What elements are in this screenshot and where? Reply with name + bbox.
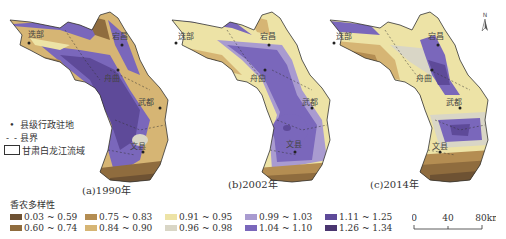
color-swatch-icon [325,225,337,231]
map-symbol-legend: • 县级行政驻地 - - 县界 甘肃白龙江流域 [4,118,85,157]
county-label-dangchang: 宕昌 [112,30,128,41]
county-seat-dot-icon: • [4,120,20,130]
legend-class-label: 1.11 ~ 1.25 [339,212,392,222]
basin-outline-icon [4,145,20,157]
legend-seat: • 县级行政驻地 [4,118,85,131]
color-swatch-icon [325,214,337,220]
legend-class-item: 1.26 ~ 1.34 [325,223,405,233]
legend-class-item: 0.96 ~ 0.98 [165,223,245,233]
color-swatch-icon [165,214,177,220]
county-label-zhouqu: 舟曲 [250,72,266,83]
legend-classes: 0.03 ~ 0.590.75 ~ 0.830.91 ~ 0.950.99 ~ … [10,212,405,233]
scale-bar: 0 40 80km [412,212,496,236]
county-label-wenxian: 文县 [432,140,448,151]
county-label-wudu: 武都 [138,96,154,107]
svg-text:80km: 80km [475,213,496,223]
legend-class-item: 0.91 ~ 0.95 [165,212,245,222]
legend-class-label: 0.03 ~ 0.59 [24,212,77,222]
legend-class-label: 1.26 ~ 1.34 [339,223,392,233]
legend-class-item: 1.04 ~ 1.10 [245,223,325,233]
color-swatch-icon [245,214,257,220]
legend-class-item: 0.03 ~ 0.59 [10,212,85,222]
legend-basin: 甘肃白龙江流域 [4,144,85,157]
panel-caption-2002: (b)2002年 [228,176,278,191]
county-label-dangchang: 宕昌 [260,30,276,41]
legend-title: 香农多样性 [10,198,405,211]
legend-class-label: 0.99 ~ 1.03 [259,212,312,222]
county-label-zhouqu: 舟曲 [416,72,432,83]
county-label-wenxian: 文县 [286,138,302,149]
county-label-wenxian: 文县 [130,140,146,151]
legend-boundary: - - 县界 [4,131,85,144]
dashed-line-icon: - - [4,133,20,143]
north-arrow-icon: N [478,10,492,34]
svg-text:40: 40 [442,213,454,223]
legend-class-label: 0.75 ~ 0.83 [99,212,152,222]
county-label-wudu: 武都 [446,96,462,107]
legend-class-label: 0.60 ~ 0.74 [24,223,77,233]
shannon-diversity-legend: 香农多样性 0.03 ~ 0.590.75 ~ 0.830.91 ~ 0.950… [10,198,405,233]
map-panel-1990: 迭部 宕昌 舟曲 武都 文县 (a)1990年 [0,0,170,200]
county-label-diebu: 迭部 [178,30,194,41]
legend-class-item: 0.75 ~ 0.83 [85,212,165,222]
legend-class-item: 0.60 ~ 0.74 [10,223,85,233]
svg-text:0: 0 [412,213,417,223]
legend-class-item: 0.99 ~ 1.03 [245,212,325,222]
panel-caption-1990: (a)1990年 [82,182,131,197]
color-swatch-icon [85,214,97,220]
legend-class-item: 0.84 ~ 0.90 [85,223,165,233]
county-label-zhouqu: 舟曲 [104,72,120,83]
panel-caption-2014: (c)2014年 [370,176,419,191]
color-swatch-icon [165,225,177,231]
county-label-diebu: 迭部 [336,30,352,41]
color-swatch-icon [10,214,22,220]
legend-class-label: 0.91 ~ 0.95 [179,212,232,222]
county-label-diebu: 迭部 [28,28,44,39]
legend-class-item: 1.11 ~ 1.25 [325,212,405,222]
svg-text:N: N [483,11,488,18]
county-label-wudu: 武都 [302,96,318,107]
color-swatch-icon [10,225,22,231]
map-panel-2014: 迭部 宕昌 舟曲 武都 文县 (c)2014年 [320,0,490,200]
legend-class-label: 1.04 ~ 1.10 [259,223,312,233]
map-panel-2002: 迭部 宕昌 舟曲 武都 文县 (b)2002年 [162,0,332,200]
color-swatch-icon [85,225,97,231]
county-label-dangchang: 宕昌 [428,30,444,41]
legend-class-label: 0.96 ~ 0.98 [179,223,232,233]
legend-class-label: 0.84 ~ 0.90 [99,223,152,233]
color-swatch-icon [245,225,257,231]
